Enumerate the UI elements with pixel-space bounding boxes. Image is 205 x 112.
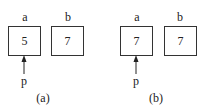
cell-b-name: b [170,11,190,23]
pointer-arrow-icon [131,55,141,75]
cell-a-box: 5 [8,26,41,56]
pointer-arrow-icon [19,55,29,75]
cell-b-box: 7 [51,26,84,56]
pointer-label: p [14,75,34,87]
cell-a-name: a [15,11,35,23]
panel-caption: (a) [28,92,58,104]
cell-a-box: 7 [120,26,153,56]
cell-b-box: 7 [164,26,197,56]
cell-b-name: b [58,11,78,23]
pointer-label: p [126,75,146,87]
panel-caption: (b) [141,92,171,104]
cell-a-name: a [127,11,147,23]
